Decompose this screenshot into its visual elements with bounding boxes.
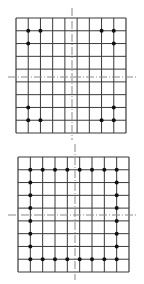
grid-dot <box>115 257 119 261</box>
grid-dot <box>112 118 116 122</box>
grid-dot <box>41 257 45 261</box>
grid-dot <box>65 168 69 172</box>
top-grid-svg <box>0 0 144 142</box>
grid-dot <box>28 219 32 223</box>
grid-dot <box>90 257 94 261</box>
grid-dot <box>38 29 42 33</box>
grid-dot <box>28 168 32 172</box>
bottom-grid-figure <box>0 142 144 284</box>
grid-dot <box>90 168 94 172</box>
grid-dot <box>115 168 119 172</box>
grid-dot <box>26 105 30 109</box>
grid-dot <box>115 219 119 223</box>
grid-dot <box>115 181 119 185</box>
grid-dot <box>28 232 32 236</box>
grid-dot <box>26 29 30 33</box>
grid-dot <box>53 257 57 261</box>
bottom-grid-svg <box>0 142 144 284</box>
grid-dot <box>112 105 116 109</box>
grid-dot <box>115 206 119 210</box>
grid-dot <box>28 244 32 248</box>
grid-dot <box>41 168 45 172</box>
grid-dot <box>115 244 119 248</box>
grid-dot <box>112 29 116 33</box>
top-grid-figure <box>0 0 144 142</box>
grid-dot <box>28 181 32 185</box>
grid-dot <box>65 257 69 261</box>
grid-dot <box>28 257 32 261</box>
grid-dot <box>112 42 116 46</box>
grid-dot <box>78 257 82 261</box>
grid-dot <box>102 257 106 261</box>
grid-dot <box>115 193 119 197</box>
grid-dot <box>100 118 104 122</box>
grid-dot <box>28 206 32 210</box>
grid-dot <box>53 168 57 172</box>
grid-dot <box>78 168 82 172</box>
grid-dot <box>26 118 30 122</box>
grid-dot <box>100 29 104 33</box>
grid-dot <box>102 168 106 172</box>
grid-dot <box>28 193 32 197</box>
grid-dot <box>26 42 30 46</box>
grid-dot <box>38 118 42 122</box>
grid-dot <box>115 232 119 236</box>
